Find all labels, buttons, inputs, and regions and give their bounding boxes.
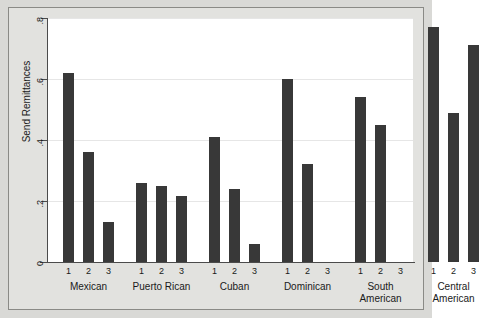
bar-tick-label: 2: [447, 266, 461, 276]
bar-tick-label: 3: [321, 266, 335, 276]
bar: [428, 27, 439, 262]
bar-tick-label: 2: [82, 266, 96, 276]
gridline: [48, 79, 413, 80]
gridline: [48, 18, 413, 19]
bar-tick-label: 2: [155, 266, 169, 276]
bar-tick-label: 3: [248, 266, 262, 276]
bar: [83, 152, 94, 262]
y-tick-label: .8: [35, 17, 45, 57]
plot-area: [48, 18, 413, 262]
bar-tick-label: 2: [228, 266, 242, 276]
bar-tick-label: 2: [301, 266, 315, 276]
bar-tick-label: 3: [467, 266, 481, 276]
bar: [282, 79, 293, 262]
bar: [448, 113, 459, 262]
bar: [103, 222, 114, 262]
bar: [156, 186, 167, 262]
bar: [375, 125, 386, 262]
y-tick-label: .2: [35, 200, 45, 240]
bar: [468, 45, 479, 262]
bar: [176, 196, 187, 262]
x-axis-spine: [40, 262, 415, 263]
bar-tick-label: 1: [135, 266, 149, 276]
bar: [302, 164, 313, 262]
y-axis-title: Send Remittances: [21, 32, 32, 172]
y-tick-label: .6: [35, 78, 45, 118]
bar: [136, 183, 147, 262]
bar-tick-label: 1: [354, 266, 368, 276]
bar-tick-label: 1: [427, 266, 441, 276]
bar-tick-label: 1: [208, 266, 222, 276]
bar: [209, 137, 220, 262]
bar-tick-label: 3: [394, 266, 408, 276]
y-axis-spine: [47, 18, 48, 263]
bar-tick-label: 1: [62, 266, 76, 276]
bar-tick-label: 2: [374, 266, 388, 276]
bar: [249, 244, 260, 262]
bar: [355, 97, 366, 262]
y-tick-label: .4: [35, 139, 45, 179]
bar: [63, 73, 74, 262]
bar-tick-label: 3: [102, 266, 116, 276]
bar-tick-label: 3: [175, 266, 189, 276]
group-label: Central American: [404, 281, 483, 305]
bar: [229, 189, 240, 262]
bar-tick-label: 1: [281, 266, 295, 276]
